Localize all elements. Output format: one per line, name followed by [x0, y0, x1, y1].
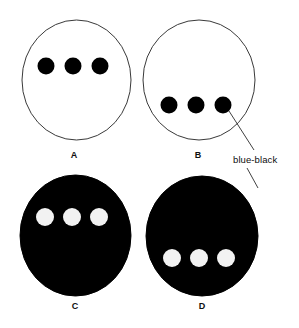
panel-a-dot-3 [92, 58, 109, 75]
panel-label-d: D [190, 301, 214, 311]
panel-label-c: C [63, 301, 87, 311]
panel-b-dot-1 [161, 97, 178, 114]
panel-c-group [20, 175, 131, 296]
panel-a-dot-1 [38, 58, 55, 75]
panel-b-dot-3 [215, 97, 232, 114]
panel-b-disc [143, 20, 255, 140]
panel-a-group [22, 20, 131, 140]
panel-label-b: B [186, 150, 210, 160]
panel-c-disc [20, 175, 131, 296]
panel-a-disc [22, 20, 131, 140]
panel-c-dot-1 [36, 208, 54, 226]
panel-d-dot-2 [190, 249, 208, 267]
panel-a-dot-2 [65, 58, 82, 75]
panel-label-a: A [62, 150, 86, 160]
panel-c-dot-2 [63, 208, 81, 226]
panel-d-group [146, 176, 258, 296]
annotation-label-blue-black: blue-black [233, 154, 277, 165]
panel-b-group [143, 20, 255, 140]
panel-b-dot-2 [188, 97, 205, 114]
leader-line-to-panel-d [247, 168, 258, 188]
panel-d-dot-1 [163, 249, 181, 267]
panel-c-dot-3 [90, 208, 108, 226]
panel-d-dot-3 [217, 249, 235, 267]
panel-d-disc [146, 176, 258, 296]
figure-container: A B C D blue-black [0, 0, 299, 328]
